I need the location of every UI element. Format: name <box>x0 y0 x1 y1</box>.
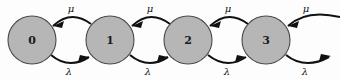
transition-arc-4-to-3 <box>288 14 340 28</box>
state-label-0: 0 <box>28 34 36 47</box>
rate-label-lambda-1-2: λ <box>144 66 151 77</box>
rate-label-mu-4-3: μ <box>303 3 310 14</box>
transition-arc-2-to-3 <box>208 55 246 63</box>
rate-label-lambda-2-3: λ <box>223 66 230 77</box>
state-node-1[interactable]: 1 <box>86 16 134 64</box>
state-node-2[interactable]: 2 <box>164 16 212 64</box>
diagram-canvas: 0 1 2 3 μ μ μ μ λ λ λ <box>0 0 340 79</box>
markov-chain-diagram: 0 1 2 3 μ μ μ μ λ λ λ <box>0 0 340 79</box>
state-label-3: 3 <box>262 34 270 47</box>
rate-label-mu-1-0: μ <box>68 3 75 14</box>
transition-arc-0-to-1 <box>51 55 89 63</box>
rate-label-lambda-3-4: λ <box>301 66 308 77</box>
mu-rate-label-group: μ μ μ μ <box>68 3 310 14</box>
rate-label-mu-2-1: μ <box>147 3 154 14</box>
transition-arc-3-to-4 <box>286 54 331 63</box>
rate-label-lambda-0-1: λ <box>65 66 72 77</box>
state-label-2: 2 <box>184 34 192 47</box>
rate-label-mu-3-2: μ <box>225 3 232 14</box>
state-label-1: 1 <box>106 34 114 47</box>
state-node-3[interactable]: 3 <box>242 16 290 64</box>
state-node-0[interactable]: 0 <box>8 16 56 64</box>
transition-arc-1-to-0 <box>53 17 91 28</box>
transition-arc-3-to-2 <box>210 17 248 28</box>
transition-arc-2-to-1 <box>132 17 170 28</box>
lambda-rate-label-group: λ λ λ λ <box>65 66 308 77</box>
transition-arc-1-to-2 <box>130 55 168 63</box>
